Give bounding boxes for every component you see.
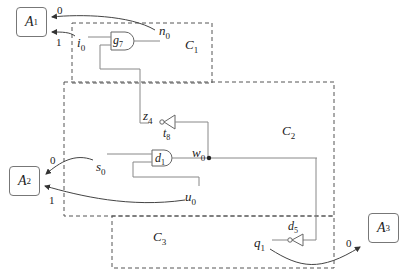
gate-t8-label: t8: [163, 126, 170, 142]
gate-g7-label: g7: [113, 33, 123, 49]
wire-i0-label: i0: [77, 36, 85, 53]
gate-d1-label: d1: [155, 151, 165, 167]
edge-label-n0-a1: 0: [57, 5, 63, 16]
edge-label-u0-a2: 1: [49, 195, 55, 206]
wire-w0-label: w0: [192, 146, 205, 163]
cluster-c1-label: C1: [185, 38, 198, 55]
wire-u0-label: u0: [185, 190, 196, 207]
cluster-c2-label: C2: [282, 124, 295, 141]
wire-s0-label: s0: [96, 160, 106, 177]
junction-w0: [207, 156, 211, 160]
cluster-c3-label: C3: [153, 230, 166, 247]
edge-label-q1-a3: 0: [346, 238, 352, 249]
agent-a3: A3: [368, 213, 399, 243]
edge-label-s0-a2: 0: [50, 155, 56, 166]
wire-z4-label: z4: [143, 109, 153, 126]
edge-label-i0-a1: 1: [56, 37, 62, 48]
edge-q1-a3: [270, 247, 360, 265]
agent-a1: A1: [16, 7, 47, 37]
gate-d5-label: d5: [288, 219, 298, 235]
wire-n0-label: n0: [159, 24, 170, 41]
gate-d5-shape: [292, 234, 303, 246]
agent-a2: A2: [9, 166, 40, 196]
wire-q1-label: q1: [254, 236, 265, 253]
edge-u0-a2: [45, 186, 185, 203]
